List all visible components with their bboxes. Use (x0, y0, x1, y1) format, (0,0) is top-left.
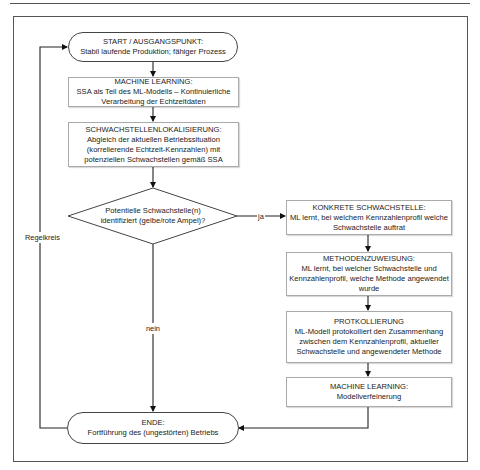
machine-learning-node: MACHINE LEARNING: SSA als Teil des ML-Mo… (68, 77, 239, 107)
protokoll-line2: zwischen dem Kennzahlenprofil, aktueller (299, 337, 439, 347)
protokoll-line3: Schwachstelle und angewendeter Methode (296, 347, 441, 357)
edge-label-regelkreis: Regelkreis (24, 232, 61, 243)
ml2-text: Modellverfeinerung (337, 392, 402, 402)
protokoll-line1: ML-Modell protokolliert den Zusammenhang (295, 327, 444, 337)
konkret-line1: ML lernt, bei welchem Kennzahlenprofil w… (290, 213, 448, 223)
ende-title: ENDE: (141, 418, 164, 428)
methodenzuweisung-node: METHODENZUWEISUNG: ML lernt, bei welcher… (286, 252, 452, 296)
start-title: START / AUSGANGSPUNKT: (103, 37, 203, 47)
methoden-title: METHODENZUWEISUNG: (323, 254, 415, 264)
lokalisierung-line3: potenziellen Schwachstellen gemäß SSA (84, 155, 222, 165)
lokalisierung-line1: Abgleich der aktuellen Betriebssituation (87, 135, 220, 145)
ml2-title: MACHINE LEARNING: (330, 382, 408, 392)
protokollierung-node: PROTKOLLIERUNG ML-Modell protokolliert d… (286, 311, 452, 363)
ml1-title: MACHINE LEARNING: (114, 77, 192, 87)
konkrete-schwachstelle-node: KONKRETE SCHWACHSTELLE: ML lernt, bei we… (286, 200, 452, 235)
ende-node: ENDE: Fortführung des (ungestörten) Betr… (67, 412, 239, 444)
methoden-line3: wurde (359, 284, 380, 294)
lokalisierung-line2: (korrelierende Echtzeit-Kennzahlen) mit (87, 145, 220, 155)
ml1-line2: Verarbeitung der Echtzeitdaten (101, 97, 205, 107)
start-text: Stabil laufende Produktion; fähiger Proz… (80, 47, 226, 57)
methoden-line2: Kennzahlenprofil, welche Methode angewen… (289, 274, 449, 284)
ende-text: Fortführung des (ungestörten) Betriebs (88, 428, 219, 438)
decision-line2: identifiziert (gelbe/rote Ampel)? (88, 216, 218, 226)
decision-line1: Potentielle Schwachstelle(n) (88, 206, 218, 216)
start-node: START / AUSGANGSPUNKT: Stabil laufende P… (68, 32, 238, 62)
edge-label-ja: ja (257, 212, 265, 221)
konkret-line2: Schwachstelle auftrat (333, 223, 405, 233)
methoden-line1: ML lernt, bei welcher Schwachstelle und (301, 264, 436, 274)
konkret-title: KONKRETE SCHWACHSTELLE: (312, 203, 425, 213)
protokoll-title: PROTKOLLIERUNG (334, 317, 404, 327)
schwachstellenlokalisierung-node: SCHWACHSTELLENLOKALISIERUNG: Abgleich de… (68, 122, 239, 167)
ml1-line1: SSA als Teil des ML-Modells – Kontinuier… (77, 87, 231, 97)
modellverfeinerung-node: MACHINE LEARNING: Modellverfeinerung (286, 377, 452, 407)
edge-label-nein: nein (145, 323, 161, 334)
decision-text: Potentielle Schwachstelle(n) identifizie… (88, 206, 218, 226)
lokalisierung-title: SCHWACHSTELLENLOKALISIERUNG: (85, 125, 221, 135)
